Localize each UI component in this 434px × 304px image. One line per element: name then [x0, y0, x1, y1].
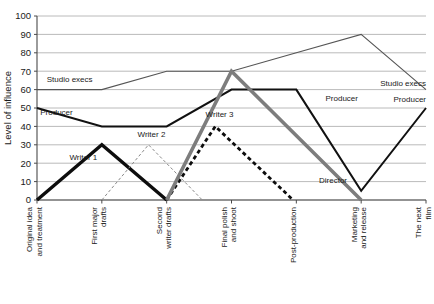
y-tick-label-80: 80 [20, 47, 31, 58]
chart-container: 0102030405060708090100 Studio execsStudi… [0, 0, 434, 304]
series-line-producer [37, 90, 426, 191]
series-line-studio-execs [37, 34, 426, 89]
series-label-writer-1: Writer 1 [69, 153, 97, 162]
x-tick-label-3: Final polish [220, 207, 229, 247]
series-label-writer-2: Writer 2 [137, 130, 165, 139]
x-tick-label-1: First major [90, 207, 99, 245]
x-tick-labels: Original ideaand treatmentFirst majordra… [25, 206, 432, 263]
y-tick-label-30: 30 [20, 139, 31, 150]
y-tick-label-100: 100 [15, 10, 31, 21]
series-label-studio-execs: Studio execs [380, 79, 426, 88]
x-tick-label-6: The next [414, 206, 423, 238]
series-label-producer: Producer [394, 95, 427, 104]
x-tick-label-3: and shoot [229, 206, 238, 242]
series-line-writer-2 [102, 145, 202, 200]
x-tick-label-4: Post-production [289, 207, 298, 263]
influence-line-chart: 0102030405060708090100 Studio execsStudi… [0, 0, 434, 304]
gridlines [37, 16, 426, 200]
series-label-director: Director [319, 176, 347, 185]
series-inline-labels: Studio execsStudio execsProducerProducer… [40, 75, 426, 185]
y-tick-label-40: 40 [20, 121, 31, 132]
x-tick-label-1: drafts [99, 207, 108, 227]
y-tick-label-50: 50 [20, 102, 31, 113]
x-tick-label-2: Second [155, 207, 164, 234]
y-axis-title: Level of influence [2, 71, 13, 145]
x-tick-label-5: Marketing [350, 207, 359, 242]
y-tick-label-20: 20 [20, 158, 31, 169]
x-tick-label-5: and release [359, 206, 368, 248]
series-label-studio-execs: Studio execs [47, 75, 93, 84]
y-tick-label-0: 0 [26, 194, 31, 205]
series-label-producer: Producer [40, 108, 73, 117]
series-label-writer-3: Writer 3 [206, 110, 234, 119]
x-tick-label-6: film [424, 207, 433, 220]
x-tick-label-0: Original idea [25, 206, 34, 251]
y-tick-label-90: 90 [20, 29, 31, 40]
series-label-producer: Producer [326, 94, 359, 103]
y-tick-labels: 0102030405060708090100 [15, 10, 37, 205]
series-line-writer-1 [37, 145, 167, 200]
x-tick-label-0: and treatment [35, 206, 44, 256]
y-tick-label-10: 10 [20, 176, 31, 187]
y-tick-label-70: 70 [20, 66, 31, 77]
x-tick-label-2: writer drafts [164, 207, 173, 250]
y-tick-label-60: 60 [20, 84, 31, 95]
